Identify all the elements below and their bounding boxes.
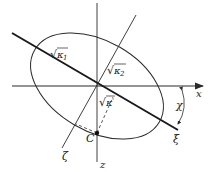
ellipse-diagram: √ κ 1 √ κ 2 √ κ ' C x z ξ ζ χ bbox=[0, 0, 219, 172]
label-point-c: C bbox=[86, 132, 95, 145]
diagram-canvas: √ κ 1 √ κ 2 √ κ ' C x z ξ ζ χ bbox=[0, 0, 219, 172]
zeta-axis bbox=[62, 15, 136, 148]
label-angle-chi: χ bbox=[175, 99, 184, 112]
label-sqrt-kappa2: √ κ 2 bbox=[107, 64, 126, 78]
xi-axis bbox=[12, 33, 178, 130]
svg-text:2: 2 bbox=[119, 70, 125, 78]
svg-text:': ' bbox=[112, 97, 114, 105]
label-zeta-axis: ζ bbox=[62, 150, 69, 163]
label-z-axis: z bbox=[99, 159, 106, 170]
label-sqrt-kappa-prime: √ κ ' bbox=[99, 96, 115, 109]
label-sqrt-kappa1: √ κ 1 bbox=[50, 48, 68, 62]
label-xi-axis: ξ bbox=[173, 133, 180, 146]
point-c bbox=[95, 131, 99, 135]
label-x-axis: x bbox=[196, 88, 202, 99]
svg-text:1: 1 bbox=[63, 54, 67, 62]
